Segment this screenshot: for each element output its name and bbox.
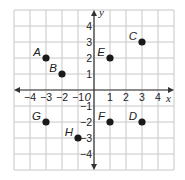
y-tick-label: −2 [80,116,92,128]
point-g [42,118,49,125]
y-tick-label: 3 [86,36,92,48]
x-tick-label: 1 [107,91,113,103]
coordinate-plane: xy −4−3−2−11234−4−3−2−112340 ABCDEFGH [0,0,185,180]
x-tick-label: −4 [24,91,36,103]
point-f [106,118,113,125]
x-tick-label: 2 [123,91,129,103]
origin-label: 0 [85,91,92,103]
y-tick-label: 4 [86,20,92,32]
point-label-g: G [32,110,41,122]
x-axis-label: x [165,92,171,104]
x-tick-label: −2 [56,91,68,103]
point-d [138,118,145,125]
point-label-c: C [129,30,138,42]
y-tick-label: 2 [86,52,92,64]
point-e [106,54,113,61]
point-label-f: F [98,110,106,122]
y-axis-label: y [98,6,104,18]
point-label-d: D [129,110,137,122]
y-axis-down-arrow-icon [91,164,97,170]
y-tick-label: −4 [80,148,92,160]
axes: xy [14,6,174,170]
x-tick-label: 4 [155,91,161,103]
point-label-a: A [32,46,41,58]
y-tick-label: 1 [86,68,92,80]
point-label-e: E [97,46,105,58]
point-label-h: H [65,126,74,138]
x-tick-label: 3 [139,91,145,103]
point-h [74,134,81,141]
point-label-b: B [49,62,57,74]
point-c [138,38,145,45]
x-axis-left-arrow-icon [14,87,20,93]
point-a [42,54,49,61]
x-tick-label: −3 [40,91,52,103]
y-tick-label: −3 [80,132,92,144]
point-b [58,70,65,77]
y-axis-up-arrow-icon [91,10,97,16]
